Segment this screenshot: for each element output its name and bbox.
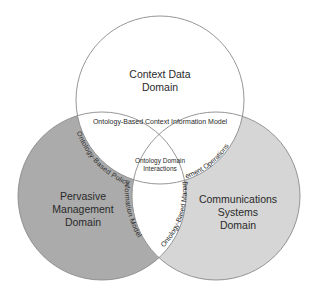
pervasive-label-line2: Management	[52, 203, 113, 215]
pervasive-label-line3: Domain	[65, 216, 101, 228]
pervasive-label-line1: Pervasive	[60, 190, 106, 202]
communications-label-line3: Domain	[220, 219, 256, 231]
context-data-label-line1: Context Data	[129, 68, 190, 80]
communications-label-line1: Communications	[199, 193, 277, 205]
venn-diagram: Context Data Domain Pervasive Management…	[0, 0, 317, 298]
ontology-domain-interactions-line1: Ontology Domain	[135, 157, 186, 165]
ontology-domain-interactions-line2: Interactions	[143, 165, 177, 172]
context-data-label-line2: Domain	[142, 81, 178, 93]
context-information-model-label: Ontology-Based Context Information Model	[93, 118, 228, 126]
communications-label-line2: Systems	[218, 206, 258, 218]
